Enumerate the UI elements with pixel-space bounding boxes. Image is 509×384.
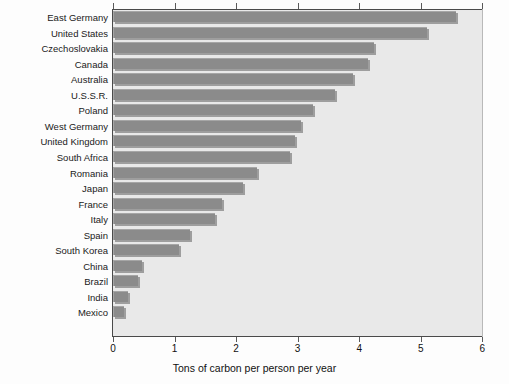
x-tick-top <box>298 3 299 9</box>
x-tick-top <box>113 3 114 9</box>
category-label: India <box>87 292 108 303</box>
bar <box>113 151 290 162</box>
x-tick-label: 5 <box>418 343 424 354</box>
category-label: China <box>83 261 108 272</box>
x-tick-top <box>236 3 237 9</box>
x-tick-label: 1 <box>172 343 178 354</box>
bar <box>113 120 301 131</box>
bar <box>113 275 138 286</box>
x-axis-title: Tons of carbon per person per year <box>0 362 509 374</box>
category-label: Poland <box>78 105 108 116</box>
bar <box>113 306 124 317</box>
category-label: France <box>78 199 108 210</box>
category-label: West Germany <box>45 121 108 132</box>
category-label: East Germany <box>47 12 108 23</box>
x-tick-bottom <box>236 337 237 342</box>
category-label: Mexico <box>78 307 108 318</box>
bar <box>113 291 128 302</box>
category-label: United Kingdom <box>40 136 108 147</box>
x-tick-bottom <box>482 337 483 342</box>
category-label: Czechoslovakia <box>41 43 108 54</box>
bar <box>113 89 335 100</box>
x-tick-label: 6 <box>480 343 486 354</box>
bar <box>113 73 353 84</box>
bar <box>113 260 142 271</box>
x-tick-bottom <box>113 337 114 342</box>
bar-chart: East GermanyUnited StatesCzechoslovakiaC… <box>0 0 509 384</box>
x-tick-label: 3 <box>295 343 301 354</box>
plot-right-border <box>482 9 483 337</box>
x-tick-top <box>175 3 176 9</box>
bar <box>113 198 222 209</box>
category-label: United States <box>51 28 108 39</box>
x-tick-bottom <box>298 337 299 342</box>
bar <box>113 244 179 255</box>
category-label: South Africa <box>57 152 108 163</box>
x-tick-label: 2 <box>233 343 239 354</box>
bar <box>113 42 374 53</box>
bar <box>113 213 215 224</box>
category-label: Brazil <box>84 276 108 287</box>
category-label: South Korea <box>55 245 108 256</box>
bar <box>113 167 257 178</box>
category-label: Italy <box>91 214 108 225</box>
x-tick-top <box>359 3 360 9</box>
category-label: Canada <box>75 59 108 70</box>
bar <box>113 58 368 69</box>
category-label: U.S.S.R. <box>71 90 108 101</box>
bar <box>113 182 243 193</box>
x-tick-top <box>482 3 483 9</box>
bar <box>113 11 456 22</box>
bar <box>113 104 313 115</box>
x-tick-label: 4 <box>356 343 362 354</box>
bar <box>113 229 190 240</box>
category-label: Spain <box>84 230 108 241</box>
category-label: Australia <box>71 74 108 85</box>
category-label: Japan <box>82 183 108 194</box>
x-tick-bottom <box>359 337 360 342</box>
x-tick-bottom <box>175 337 176 342</box>
x-tick-top <box>421 3 422 9</box>
bar <box>113 27 427 38</box>
x-tick-label: 0 <box>110 343 116 354</box>
bar <box>113 135 295 146</box>
category-label: Romania <box>70 168 108 179</box>
x-tick-bottom <box>421 337 422 342</box>
